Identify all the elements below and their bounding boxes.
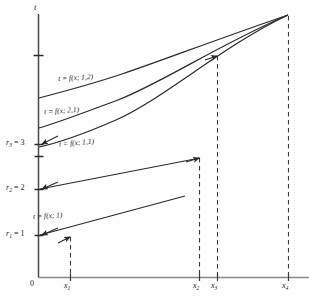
origin-label: 0	[30, 279, 34, 288]
x-tick-label-x3: x3	[211, 281, 217, 291]
y-tick-r1-eq: = 1	[14, 229, 25, 238]
y-tick-r3-sub: 3	[9, 142, 12, 148]
y-tick-r3-eq: = 3	[14, 138, 25, 147]
plot-svg	[0, 0, 309, 299]
curve-f-1-2	[39, 15, 288, 98]
dashed-drop-lines	[71, 16, 289, 277]
x-tick-x4-sub: 4	[286, 285, 289, 291]
ray-from-r2	[40, 158, 200, 189]
x-tick-x3-sub: 3	[215, 285, 218, 291]
x-tick-label-x2: x2	[193, 281, 199, 291]
y-tick-r2-sub: 2	[9, 187, 12, 193]
x-tick-x2-sub: 2	[197, 285, 200, 291]
y-tick-label-r3: r3 = 3	[6, 138, 24, 148]
x-tick-label-x4: x4	[282, 281, 288, 291]
y-tick-r1-sub: 1	[9, 233, 12, 239]
x-tick-x1-sub: 1	[68, 285, 71, 291]
y-tick-label-r2: r2 = 2	[6, 183, 24, 193]
y-axis-label: t	[34, 2, 36, 12]
curve-end-arrows	[58, 56, 217, 243]
figure-canvas: t 0 r3 = 3 r2 = 2 r1 = 1 x1 x2 x3 x4 t =…	[0, 0, 309, 299]
y-tick-r2-eq: = 2	[14, 183, 25, 192]
y-tick-label-r1: r1 = 1	[6, 229, 24, 239]
x-tick-label-x1: x1	[64, 281, 70, 291]
